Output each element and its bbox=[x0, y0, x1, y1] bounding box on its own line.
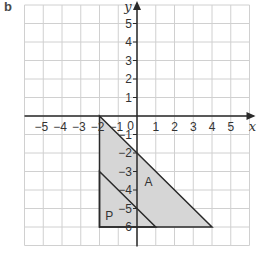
region-label-a: A bbox=[145, 175, 153, 189]
coordinate-grid: −5−4−3−2−11234554321−1−2−3−4−5−60xyAP bbox=[0, 0, 262, 265]
x-tick-label: −2 bbox=[91, 120, 105, 134]
y-tick-label: 2 bbox=[125, 72, 132, 86]
y-tick-label: −3 bbox=[118, 165, 132, 179]
y-tick-label: 5 bbox=[125, 17, 132, 31]
x-tick-label: −4 bbox=[53, 120, 67, 134]
x-tick-label: −3 bbox=[72, 120, 86, 134]
y-tick-label: −2 bbox=[118, 146, 132, 160]
y-tick-label: −4 bbox=[118, 183, 132, 197]
region-label-p: P bbox=[105, 209, 113, 223]
origin-label: 0 bbox=[127, 119, 134, 133]
x-axis-label: x bbox=[249, 119, 257, 134]
x-tick-label: −5 bbox=[34, 120, 48, 134]
y-tick-label: −5 bbox=[118, 202, 132, 216]
y-tick-label: 1 bbox=[125, 91, 132, 105]
y-tick-label: −6 bbox=[118, 220, 132, 234]
x-tick-label: 2 bbox=[171, 120, 178, 134]
y-axis-label: y bbox=[123, 0, 132, 14]
x-tick-label: 1 bbox=[152, 120, 159, 134]
x-tick-label: 4 bbox=[209, 120, 216, 134]
x-tick-label: 3 bbox=[190, 120, 197, 134]
y-tick-label: 4 bbox=[125, 35, 132, 49]
y-tick-label: 3 bbox=[125, 54, 132, 68]
x-tick-label: 5 bbox=[227, 120, 234, 134]
